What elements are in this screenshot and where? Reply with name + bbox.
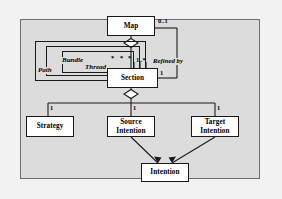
class-label-strategy: Strategy (37, 122, 64, 130)
self-association-label-thread: Thread (84, 64, 107, 71)
class-label-section: Section (121, 74, 144, 82)
multiplicity-target-1: 1 (217, 105, 220, 111)
class-box-map[interactable]: Map (107, 16, 155, 36)
multiplicity-source-1: 1 (133, 105, 136, 111)
multiplicity-thread-star-mid: * (120, 55, 123, 61)
class-label-target-intention-line2: Intention (200, 127, 229, 135)
edge-label-refined-by: Refined by (152, 58, 184, 65)
class-box-intention[interactable]: Intention (141, 163, 189, 182)
multiplicity-map-0-1: 0..1 (158, 18, 168, 24)
class-label-intention: Intention (150, 168, 179, 176)
class-label-source-intention-line2: Intention (116, 127, 145, 135)
class-box-target-intention[interactable]: Target Intention (191, 116, 239, 137)
class-label-source-intention-line1: Source (120, 118, 142, 126)
multiplicity-thread-star-left: * (111, 55, 114, 61)
class-label-map: Map (124, 22, 139, 30)
self-association-label-path: Path (37, 67, 53, 74)
multiplicity-strategy-1: 1 (50, 105, 53, 111)
multiplicity-section-refined-1: 1 (160, 70, 163, 76)
self-association-label-bundle: Bundle (61, 57, 84, 64)
class-box-strategy[interactable]: Strategy (26, 116, 74, 137)
class-label-target-intention-line1: Target (205, 118, 226, 126)
multiplicity-thread-star-right: * (128, 55, 131, 61)
class-box-source-intention[interactable]: Source Intention (107, 116, 155, 137)
multiplicity-section-1-star: 1..* (136, 57, 146, 63)
class-box-section[interactable]: Section (107, 68, 158, 88)
diagram-canvas: Map Section Strategy Source Intention Ta… (0, 0, 282, 199)
